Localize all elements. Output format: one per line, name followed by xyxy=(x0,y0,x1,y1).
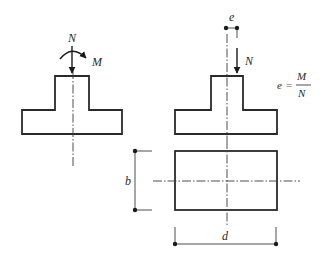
moment-arc-arrow xyxy=(60,51,86,59)
d-dot-right xyxy=(274,242,278,246)
eccentricity-formula: e = M N xyxy=(277,70,311,99)
eccentric-load-diagram: N M e N e = M N b xyxy=(0,0,328,262)
b-dot-bottom xyxy=(133,208,137,212)
eccentricity-dot-left xyxy=(224,26,228,30)
formula-lhs: e xyxy=(277,79,282,91)
plan-view: b d xyxy=(125,140,300,246)
formula-denominator: N xyxy=(297,87,306,99)
formula-numerator: M xyxy=(296,70,307,82)
d-dimension-label: d xyxy=(222,229,229,243)
right-axial-load-label: N xyxy=(244,54,254,68)
b-dot-top xyxy=(133,149,137,153)
left-t-outline xyxy=(22,76,122,134)
formula-equals: = xyxy=(286,79,292,91)
d-dot-left xyxy=(173,242,177,246)
moment-label: M xyxy=(91,55,103,69)
left-t-section: N M xyxy=(22,31,122,167)
left-axial-load-label: N xyxy=(67,31,77,45)
eccentricity-label: e xyxy=(229,10,235,24)
plan-rectangle xyxy=(175,151,277,210)
eccentricity-dot-right xyxy=(235,26,239,30)
b-dimension-label: b xyxy=(125,174,131,188)
right-t-section: e N e = M N xyxy=(175,10,311,140)
right-t-outline xyxy=(175,76,277,134)
